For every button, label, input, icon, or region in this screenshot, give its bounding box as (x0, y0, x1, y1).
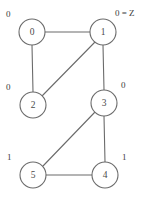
node-2[interactable]: 2 (20, 92, 46, 118)
edge-2-1 (42, 42, 95, 96)
label-node-2: 0 (6, 82, 11, 92)
node-label-2: 2 (31, 100, 36, 110)
edge-1-3 (103, 45, 104, 90)
node-label-0: 0 (30, 27, 35, 37)
label-node-3: 0 (121, 80, 126, 90)
edge-0-2 (32, 45, 33, 92)
node-label-5: 5 (31, 170, 36, 180)
edge-3-4 (104, 116, 105, 162)
node-label-3: 3 (102, 98, 107, 108)
node-1[interactable]: 1 (90, 19, 116, 45)
node-label-4: 4 (103, 170, 108, 180)
graph-canvas: 012345 00 = Z0011 (0, 0, 153, 198)
node-3[interactable]: 3 (91, 90, 117, 116)
label-node-1: 0 = Z (115, 8, 135, 18)
label-node-4: 1 (122, 152, 127, 162)
node-label-1: 1 (101, 27, 106, 37)
edge-3-5 (43, 112, 95, 166)
label-node-5: 1 (7, 152, 12, 162)
node-0[interactable]: 0 (19, 19, 45, 45)
node-5[interactable]: 5 (20, 162, 46, 188)
label-node-0: 0 (6, 9, 11, 19)
graph-figure: 012345 00 = Z0011 (0, 0, 153, 198)
nodes-group: 012345 (19, 19, 118, 188)
node-4[interactable]: 4 (92, 162, 118, 188)
